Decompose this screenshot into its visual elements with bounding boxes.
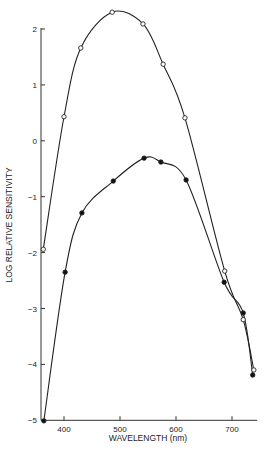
axes: 210−1−2−3−4−5400500600700 — [28, 25, 257, 434]
y-tick-label: −5 — [28, 416, 38, 425]
filled-data-point — [142, 156, 146, 160]
open-data-point — [62, 115, 66, 119]
y-tick-label: −1 — [28, 193, 38, 202]
y-tick-label: 0 — [33, 137, 38, 146]
x-tick-label: 400 — [57, 425, 71, 434]
y-tick-label: −2 — [28, 249, 38, 258]
filled-data-point — [159, 160, 163, 164]
open-data-point — [79, 46, 83, 50]
y-tick-label: 1 — [33, 81, 38, 90]
sensitivity-chart: 210−1−2−3−4−5400500600700 WAVELENGTH (nm… — [0, 0, 268, 452]
filled-data-point — [184, 178, 188, 182]
data-curves — [43, 11, 254, 421]
open-data-point — [161, 62, 165, 66]
open-data-point — [252, 368, 256, 372]
filled-data-point — [251, 373, 255, 377]
open-data-point — [241, 317, 245, 321]
filled-data-point — [222, 280, 226, 284]
open-data-point — [223, 269, 227, 273]
open-data-point — [183, 116, 187, 120]
open-data-point — [41, 247, 45, 251]
filled-circles-curve — [44, 157, 253, 421]
filled-data-point — [111, 179, 115, 183]
open-circles-curve — [43, 11, 254, 370]
filled-data-point — [80, 211, 84, 215]
x-axis-title: WAVELENGTH (nm) — [109, 433, 188, 443]
x-tick-label: 700 — [225, 425, 239, 434]
filled-data-point — [63, 270, 67, 274]
y-tick-label: 2 — [33, 25, 38, 34]
filled-data-point — [42, 419, 46, 423]
open-data-point — [110, 10, 114, 14]
y-axis-title: LOG RELATIVE SENSITIVITY — [4, 167, 14, 282]
open-data-point — [141, 22, 145, 26]
y-tick-label: −3 — [28, 305, 38, 314]
filled-data-point — [241, 311, 245, 315]
data-markers — [41, 10, 256, 423]
y-tick-label: −4 — [28, 360, 38, 369]
